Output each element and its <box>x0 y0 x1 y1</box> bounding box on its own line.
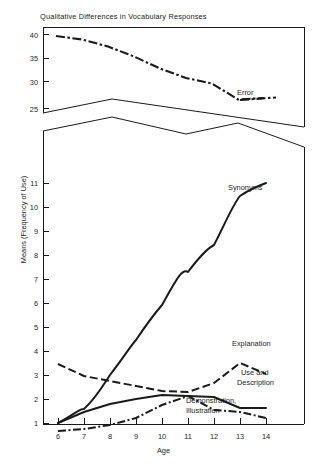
series-line-synonyms <box>58 183 266 423</box>
plot-area <box>0 0 327 471</box>
chart-figure: Qualitative Differences in Vocabulary Re… <box>0 0 327 471</box>
series-line-error <box>56 36 264 100</box>
series-line-explanation <box>58 363 266 392</box>
series-line-error-tail <box>240 98 276 101</box>
series-line-demonstration-illustration <box>58 396 266 431</box>
